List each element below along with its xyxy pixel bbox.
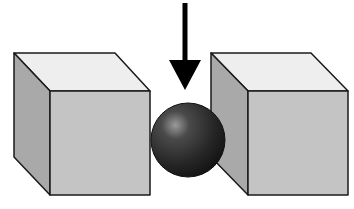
- sphere: [151, 103, 225, 177]
- left-cube: [14, 53, 150, 195]
- diagram-svg: [0, 0, 354, 209]
- right-cube-front-face: [248, 91, 348, 195]
- diagram-canvas: [0, 0, 354, 209]
- right-cube: [211, 53, 348, 195]
- down-arrow-icon: [169, 3, 201, 90]
- left-cube-front-face: [50, 91, 150, 195]
- arrow-shaft: [183, 3, 188, 62]
- arrow-head: [169, 60, 201, 90]
